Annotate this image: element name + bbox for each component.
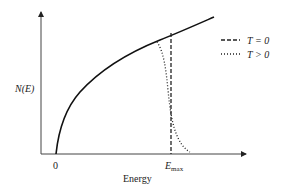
legend-t0-label: T = 0 (247, 35, 269, 46)
density-curve (56, 17, 214, 154)
legend-tpos-label: T > 0 (247, 49, 269, 60)
emax-sub: max (171, 165, 184, 173)
x-tick-zero: 0 (53, 160, 58, 171)
x-axis-label: Energy (123, 173, 152, 184)
chart: T = 0 T > 0 N(E) 0 Emax Energy (0, 0, 287, 193)
emax-main: E (164, 160, 171, 171)
y-axis-label: N(E) (14, 83, 35, 95)
tpos-falloff-curve (157, 42, 190, 152)
x-tick-emax: Emax (164, 160, 184, 173)
